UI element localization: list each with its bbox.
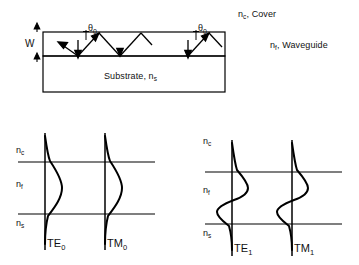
tm0-label: TM0: [107, 238, 127, 251]
ray-segment-down-right: [209, 33, 222, 47]
cover-index-label: nc, Cover: [238, 10, 276, 21]
tm0-mode-curve: [105, 136, 122, 244]
ray-segment-down-left: [99, 33, 120, 56]
waveguide-layer-rect: [43, 32, 225, 56]
waveguide-index-label: nf, Waveguide: [270, 41, 328, 52]
te1-label: TE1: [234, 243, 253, 256]
panel0-waveguide-label: nf: [16, 180, 23, 191]
ray-down-arrowhead-right: [185, 51, 191, 59]
substrate-index-label: Substrate, ns: [104, 72, 157, 83]
te0-mode-curve: [45, 136, 62, 244]
panel1-substrate-label: ns: [203, 229, 211, 240]
panel-fundamental: [18, 133, 155, 250]
panel-first-order: [205, 140, 342, 256]
panel1-cover-label: nc: [203, 137, 211, 148]
ray-arrowhead-down-left-2: [117, 49, 123, 57]
panel0-cover-label: nc: [16, 146, 24, 157]
thickness-label: W: [25, 39, 35, 49]
panel0-substrate-label: ns: [16, 219, 24, 230]
te0-label: TE0: [47, 238, 66, 251]
incidence-angle-label-left: θ0: [88, 24, 97, 35]
thickness-dimension: [34, 23, 40, 62]
thickness-arrow-down-head: [34, 53, 40, 59]
thickness-arrow-up-head: [34, 23, 40, 29]
ray-path-left: [58, 30, 152, 58]
tm1-label: TM1: [294, 243, 314, 256]
ray-segment-up-left-2: [120, 33, 141, 56]
ray-tail-left: [141, 33, 152, 45]
incidence-angle-label-right: θ0: [198, 24, 207, 35]
waveguide-figure: nc, Cover nf, Waveguide Substrate, ns W …: [0, 0, 359, 265]
panel1-waveguide-label: nf: [203, 186, 210, 197]
